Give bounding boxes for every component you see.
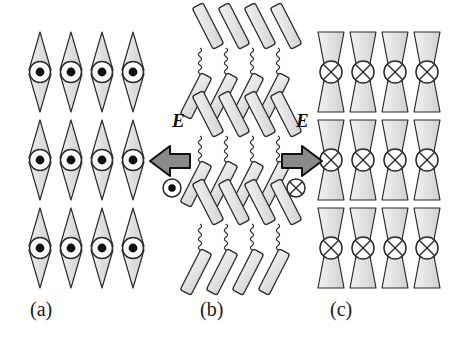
lc-unit-cone — [91, 208, 113, 288]
wavy-connector — [224, 224, 227, 250]
field-out-symbol — [92, 62, 113, 83]
lc-unit-trapezoid — [382, 32, 408, 112]
symbol-dot — [129, 156, 138, 165]
panel-b-graphic — [165, 0, 305, 300]
field-in-symbol — [416, 237, 438, 259]
field-in-symbol — [416, 149, 438, 171]
lc-unit-cone — [29, 208, 51, 288]
symbol-dot — [67, 156, 76, 165]
field-in-symbol — [352, 61, 374, 83]
wavy-connector — [276, 136, 279, 162]
field-in-symbol — [320, 149, 342, 171]
field-in-symbol — [384, 149, 406, 171]
field-out-symbol — [30, 150, 51, 171]
field-out-symbol — [123, 150, 144, 171]
symbol-dot — [98, 244, 107, 253]
field-in-symbol — [384, 237, 406, 259]
panel-b — [165, 0, 305, 300]
field-out-symbol — [123, 62, 144, 83]
lc-unit-trapezoid — [318, 120, 344, 200]
lc-unit-trapezoid — [414, 208, 440, 288]
wavy-connector — [198, 136, 201, 162]
symbol-dot — [67, 244, 76, 253]
lc-unit-cone — [60, 32, 82, 112]
lc-unit-cone — [91, 32, 113, 112]
field-out-symbol — [123, 238, 144, 259]
wavy-connector — [198, 224, 201, 250]
field-in-symbol — [384, 61, 406, 83]
field-in-symbol — [352, 237, 374, 259]
panel-a — [0, 0, 175, 300]
lc-unit-cone — [60, 120, 82, 200]
lc-unit-trapezoid — [414, 32, 440, 112]
panel-caption-c: (c) — [330, 298, 352, 321]
field-out-symbol — [30, 238, 51, 259]
wavy-connector — [276, 48, 279, 74]
wavy-connector — [250, 48, 253, 74]
symbol-dot — [98, 156, 107, 165]
field-out-symbol — [61, 238, 82, 259]
field-in-symbol — [320, 237, 342, 259]
efield-label-right: E — [296, 110, 309, 132]
lc-unit-trapezoid — [350, 32, 376, 112]
symbol-dot — [36, 156, 45, 165]
lc-unit-trapezoid — [318, 208, 344, 288]
lc-unit-cone — [29, 120, 51, 200]
field-out-symbol — [92, 150, 113, 171]
lc-unit-cone — [122, 120, 144, 200]
lc-unit-trapezoid — [382, 208, 408, 288]
field-out-symbol — [30, 62, 51, 83]
field-in-symbol — [416, 61, 438, 83]
symbol-dot — [36, 68, 45, 77]
panel-caption-b: (b) — [200, 298, 223, 321]
lc-unit-cone — [91, 120, 113, 200]
lc-unit-trapezoid — [414, 120, 440, 200]
lc-unit-trapezoid — [382, 120, 408, 200]
figure-canvas: E E (a) (b) (c) — [0, 0, 452, 348]
lc-unit-cone — [29, 32, 51, 112]
wavy-connector — [250, 136, 253, 162]
panel-c — [305, 0, 452, 300]
field-out-symbol — [61, 62, 82, 83]
lc-unit-trapezoid — [350, 208, 376, 288]
wavy-connector — [198, 48, 201, 74]
field-out-symbol — [61, 150, 82, 171]
wavy-connector — [224, 136, 227, 162]
lc-unit-trapezoid — [350, 120, 376, 200]
symbol-dot — [129, 244, 138, 253]
lc-unit-cone — [122, 208, 144, 288]
panel-a-graphic — [0, 0, 175, 300]
panel-caption-a: (a) — [30, 298, 52, 321]
field-in-symbol — [320, 61, 342, 83]
panel-c-graphic — [305, 0, 452, 300]
symbol-dot — [36, 244, 45, 253]
lc-unit-cone — [122, 32, 144, 112]
wavy-connector — [250, 224, 253, 250]
field-in-symbol — [352, 149, 374, 171]
wavy-connector — [276, 224, 279, 250]
wavy-connector — [224, 48, 227, 74]
lc-unit-trapezoid — [318, 32, 344, 112]
symbol-dot — [98, 68, 107, 77]
symbol-dot — [67, 68, 76, 77]
field-out-symbol — [92, 238, 113, 259]
symbol-dot — [129, 68, 138, 77]
lc-unit-cone — [60, 208, 82, 288]
efield-label-left: E — [172, 110, 185, 132]
